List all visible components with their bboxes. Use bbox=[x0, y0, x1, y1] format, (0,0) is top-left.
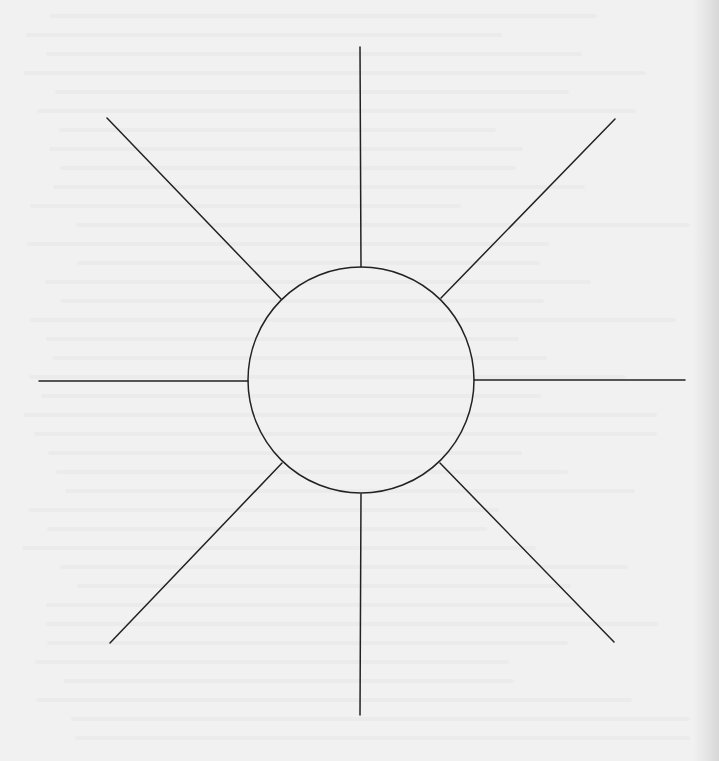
sun-diagram bbox=[0, 0, 719, 761]
scanned-page: Blank sun / spider diagram: a central ci… bbox=[0, 0, 719, 761]
center-circle bbox=[248, 267, 474, 493]
spoke-north bbox=[360, 47, 361, 267]
spokes-group bbox=[39, 47, 685, 715]
spoke-south-east bbox=[440, 463, 614, 642]
spoke-south-west bbox=[110, 463, 282, 643]
spoke-north-east bbox=[441, 119, 615, 298]
spoke-north-west bbox=[107, 118, 281, 299]
spoke-south bbox=[360, 494, 361, 715]
